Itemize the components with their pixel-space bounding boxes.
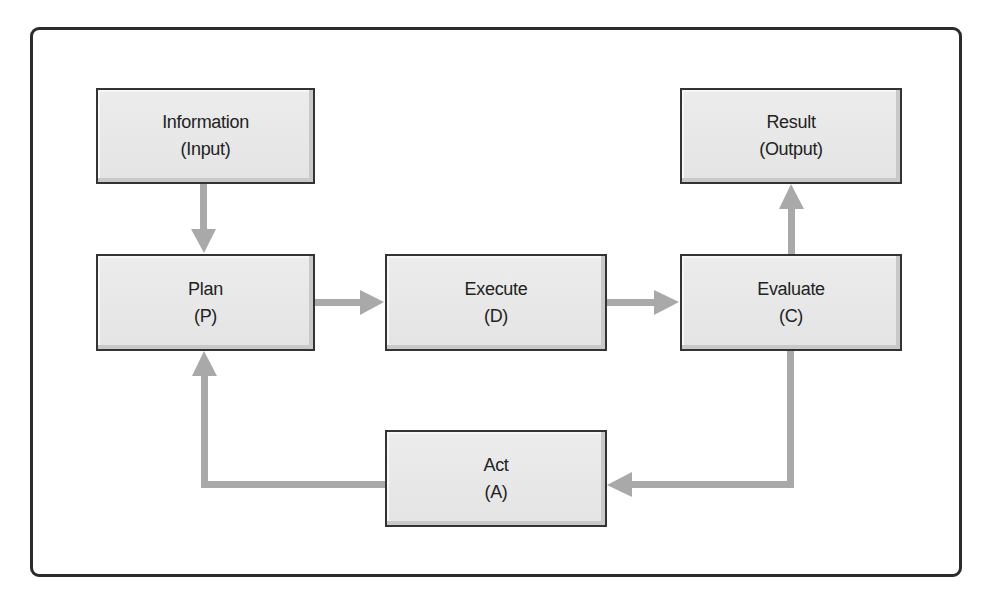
node-sublabel: (D): [484, 303, 508, 330]
arrow-execute-to-evaluate: [606, 290, 679, 315]
node-sublabel: (Input): [181, 136, 231, 163]
node-sublabel: (Output): [759, 136, 823, 163]
node-label: Plan: [188, 276, 223, 303]
node-sublabel: (C): [779, 303, 803, 330]
arrow-plan-to-execute: [314, 290, 384, 315]
node-label: Evaluate: [757, 276, 825, 303]
node-execute: Execute (D): [385, 254, 607, 351]
node-act: Act (A): [385, 430, 607, 527]
node-label: Result: [766, 109, 815, 136]
node-result: Result (Output): [680, 88, 902, 184]
node-label: Information: [162, 109, 249, 136]
arrow-evaluate-to-act: [607, 350, 794, 497]
arrow-act-to-plan: [192, 351, 385, 488]
arrow-evaluate-to-result: [779, 184, 804, 254]
node-information: Information (Input): [96, 88, 315, 184]
node-label: Execute: [465, 276, 528, 303]
node-evaluate: Evaluate (C): [680, 254, 902, 351]
node-label: Act: [483, 452, 508, 479]
node-sublabel: (A): [484, 479, 507, 506]
arrow-information-to-plan: [191, 183, 216, 253]
node-sublabel: (P): [194, 303, 217, 330]
node-plan: Plan (P): [96, 254, 315, 351]
